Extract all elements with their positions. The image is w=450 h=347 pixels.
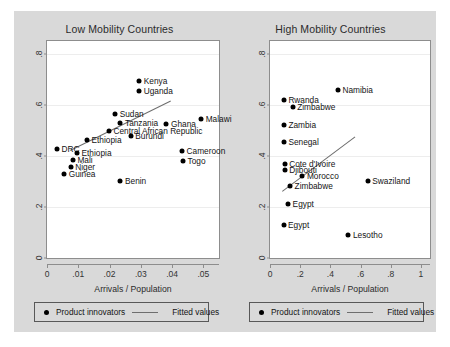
- x-tick-mark: [421, 264, 422, 268]
- data-point-label: Guinea: [69, 170, 96, 178]
- x-tick-label: .05: [197, 269, 209, 279]
- y-tick-label: .2: [257, 203, 267, 210]
- y-tick-label: .2: [34, 203, 44, 210]
- data-point: [113, 111, 118, 116]
- y-tick-mark: [44, 53, 47, 54]
- data-point: [281, 222, 286, 227]
- data-point-label: Egypt: [293, 200, 314, 208]
- y-tick-mark: [267, 104, 270, 105]
- data-point: [137, 78, 142, 83]
- data-point-label: Uganda: [144, 87, 173, 95]
- legend-low-mobility: Product innovators Fitted values: [34, 302, 209, 322]
- data-point: [281, 123, 286, 128]
- gridline: [47, 105, 219, 106]
- data-point-label: Swaziland: [372, 177, 410, 185]
- data-point-label: Lesotho: [353, 231, 383, 239]
- y-tick-label: .6: [34, 101, 44, 108]
- data-point: [199, 116, 204, 121]
- x-tick-label: .04: [166, 269, 178, 279]
- x-axis-title-high: Arrivals / Population: [270, 284, 430, 294]
- data-point: [62, 171, 67, 176]
- data-point-label: Senegal: [288, 138, 318, 146]
- x-tick-mark: [203, 264, 204, 268]
- x-tick-label: 0: [268, 269, 273, 279]
- data-point: [300, 174, 305, 179]
- data-point: [365, 179, 370, 184]
- legend-label-innovators: Product innovators: [56, 307, 125, 317]
- data-point-label: Zimbabwe: [295, 182, 333, 190]
- data-point-label: Togo: [188, 157, 206, 165]
- data-point-label: Cameroon: [187, 147, 226, 155]
- data-point-label: Ethiopia: [92, 136, 122, 144]
- x-tick-label: .8: [387, 269, 394, 279]
- data-point-label: Zimbabwe: [297, 103, 335, 111]
- y-tick-mark: [44, 155, 47, 156]
- x-tick-mark: [110, 264, 111, 268]
- x-tick-mark: [270, 264, 271, 268]
- y-tick-label: .8: [257, 50, 267, 57]
- x-axis-title-low: Arrivals / Population: [47, 284, 219, 294]
- data-point: [335, 87, 340, 92]
- legend-marker-icon: [259, 310, 264, 315]
- figure-canvas: Low Mobility Countries Arrivals / Popula…: [14, 11, 436, 332]
- y-tick-mark: [267, 206, 270, 207]
- legend-high-mobility: Product innovators Fitted values: [249, 302, 424, 322]
- x-tick-label: .4: [327, 269, 334, 279]
- x-axis-line-low: [47, 264, 219, 265]
- y-tick-mark: [267, 258, 270, 259]
- x-tick-mark: [300, 264, 301, 268]
- x-tick-label: .03: [135, 269, 147, 279]
- chart-screenshot: Low Mobility Countries Arrivals / Popula…: [0, 0, 450, 347]
- x-tick-label: 0: [45, 269, 50, 279]
- data-point: [281, 97, 286, 102]
- gridline: [47, 54, 219, 55]
- data-point-label: Zambia: [288, 121, 316, 129]
- gridline: [270, 156, 430, 157]
- data-point-label: Morocco: [307, 172, 339, 180]
- x-tick-mark: [47, 264, 48, 268]
- legend-line-icon: [347, 312, 373, 313]
- y-tick-mark: [267, 155, 270, 156]
- x-tick-label: .6: [357, 269, 364, 279]
- data-point: [85, 138, 90, 143]
- y-tick-mark: [44, 258, 47, 259]
- data-point: [55, 146, 60, 151]
- x-tick-mark: [78, 264, 79, 268]
- panel-title-high-mobility: High Mobility Countries: [225, 23, 436, 35]
- data-point-label: Kenya: [144, 76, 168, 84]
- y-tick-label: 0: [34, 256, 44, 261]
- y-tick-mark: [44, 206, 47, 207]
- data-point-label: Namibia: [342, 85, 372, 93]
- x-tick-mark: [330, 264, 331, 268]
- data-point: [137, 88, 142, 93]
- data-point: [281, 139, 286, 144]
- data-point: [128, 133, 133, 138]
- data-point: [282, 162, 287, 167]
- x-tick-label: .2: [297, 269, 304, 279]
- data-point: [290, 104, 295, 109]
- legend-line-icon: [132, 312, 158, 313]
- panel-low-mobility: Low Mobility Countries Arrivals / Popula…: [14, 11, 225, 332]
- x-tick-label: 1: [419, 269, 424, 279]
- x-tick-label: .01: [72, 269, 84, 279]
- data-point: [180, 149, 185, 154]
- data-point: [181, 159, 186, 164]
- x-tick-mark: [361, 264, 362, 268]
- data-point: [118, 179, 123, 184]
- legend-label-fitted: Fitted values: [172, 307, 219, 317]
- data-point-label: Burundi: [135, 132, 164, 140]
- data-point: [118, 120, 123, 125]
- y-tick-mark: [44, 104, 47, 105]
- y-tick-label: .4: [257, 152, 267, 159]
- legend-label-fitted: Fitted values: [387, 307, 434, 317]
- x-tick-mark: [141, 264, 142, 268]
- panel-high-mobility: High Mobility Countries Arrivals / Popul…: [225, 11, 436, 332]
- plot-area-high-mobility: Arrivals / Population 0.2.4.6.80.2.4.6.8…: [269, 40, 431, 259]
- data-point: [282, 167, 287, 172]
- x-axis-line-high: [270, 264, 430, 265]
- data-point: [346, 233, 351, 238]
- data-point-label: Benin: [125, 177, 146, 185]
- y-tick-label: .6: [257, 101, 267, 108]
- x-tick-mark: [172, 264, 173, 268]
- gridline: [270, 54, 430, 55]
